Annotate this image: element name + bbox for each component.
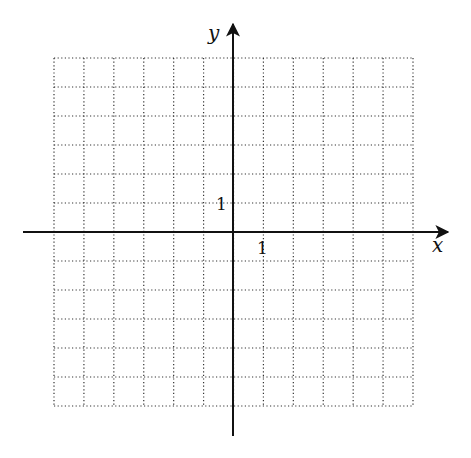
- coordinate-plane: x y 1 1: [0, 0, 471, 458]
- x-axis-label: x: [432, 233, 443, 257]
- x-tick-label-1: 1: [257, 238, 268, 258]
- y-tick-label-1: 1: [216, 194, 227, 214]
- y-axis-label: y: [207, 21, 220, 45]
